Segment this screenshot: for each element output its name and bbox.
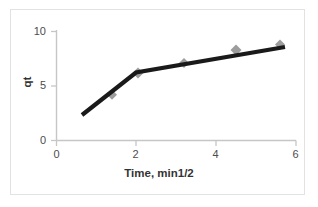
x-tick-label-0: 0 bbox=[44, 149, 69, 160]
x-axis-title: Time, min1/2 bbox=[0, 167, 318, 179]
chart-container: 10 5 0 0 2 4 6 Time, min1/2 qt bbox=[0, 0, 318, 207]
y-tick-label-0: 0 bbox=[18, 135, 46, 146]
x-tick-label-2: 2 bbox=[123, 149, 148, 160]
x-tick-label-6: 6 bbox=[283, 149, 308, 160]
x-tick-label-4: 4 bbox=[203, 149, 228, 160]
y-tick-label-10: 10 bbox=[18, 26, 46, 37]
data-point-markers bbox=[107, 40, 285, 100]
data-line bbox=[82, 47, 285, 115]
y-axis-title: qt bbox=[21, 77, 33, 88]
